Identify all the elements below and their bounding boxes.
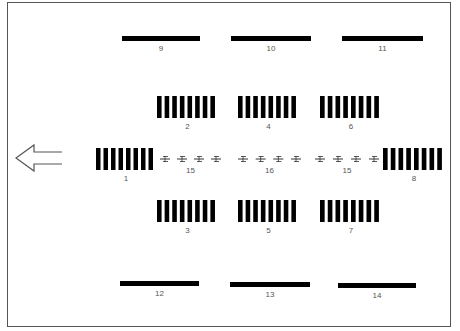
comb-stripe: [437, 148, 442, 170]
comb-stripe: [336, 96, 341, 118]
comb-stripe: [111, 148, 116, 170]
bar-13: 13: [230, 282, 310, 299]
comb-stripe: [367, 200, 372, 222]
connector-symbol: [315, 156, 325, 162]
comb-block-label: 8: [412, 174, 417, 183]
comb-stripe: [351, 200, 356, 222]
connector-symbol: [211, 156, 221, 162]
comb-stripe: [359, 200, 364, 222]
bar-label: 14: [373, 291, 382, 300]
comb-stripe: [422, 148, 427, 170]
comb-stripe: [253, 200, 258, 222]
connector-symbol: [333, 156, 343, 162]
comb-stripe: [157, 96, 162, 118]
comb-stripe: [269, 200, 274, 222]
connector-symbol: [369, 156, 379, 162]
comb-stripe: [414, 148, 419, 170]
symbol-groups-layer: 151615: [160, 156, 379, 175]
comb-stripe: [203, 200, 208, 222]
comb-stripe: [119, 148, 124, 170]
comb-stripe: [195, 96, 200, 118]
comb-stripe: [261, 200, 266, 222]
comb-block-label: 2: [185, 122, 190, 131]
comb-stripe: [374, 200, 379, 222]
comb-stripe: [399, 148, 404, 170]
comb-stripe: [180, 96, 185, 118]
comb-stripe: [328, 200, 333, 222]
symbol-group-label: 16: [265, 166, 274, 175]
connector-symbol: [256, 156, 266, 162]
comb-block-label: 6: [349, 122, 354, 131]
comb-block-label: 7: [349, 226, 354, 235]
bar-label: 13: [266, 290, 275, 299]
symbol-group-15b: 15: [315, 156, 379, 175]
bar-shape: [120, 281, 199, 286]
comb-block-label: 4: [266, 122, 271, 131]
arrow-left-icon: [16, 145, 62, 171]
comb-stripe: [246, 200, 251, 222]
comb-stripe: [276, 200, 281, 222]
comb-block-5: 5: [238, 200, 296, 235]
comb-stripe: [238, 96, 243, 118]
comb-stripe: [172, 96, 177, 118]
comb-stripe: [391, 148, 396, 170]
comb-stripe: [291, 200, 296, 222]
bar-label: 12: [155, 289, 164, 298]
comb-block-4: 4: [238, 96, 296, 131]
comb-stripe: [261, 96, 266, 118]
symbol-group-16: 16: [238, 156, 301, 175]
symbol-group-label: 15: [186, 166, 195, 175]
comb-stripe: [253, 96, 258, 118]
bar-14: 14: [338, 283, 416, 300]
connector-symbol: [238, 156, 248, 162]
bar-shape: [338, 283, 416, 288]
comb-stripe: [269, 96, 274, 118]
comb-stripe: [320, 200, 325, 222]
comb-stripe: [320, 96, 325, 118]
bar-10: 10: [231, 36, 311, 53]
comb-block-label: 3: [185, 226, 190, 235]
bar-shape: [230, 282, 310, 287]
comb-stripe: [149, 148, 154, 170]
connector-symbol: [160, 156, 170, 162]
comb-stripe: [210, 200, 215, 222]
comb-stripe: [134, 148, 139, 170]
comb-stripe: [383, 148, 388, 170]
comb-block-6: 6: [320, 96, 379, 131]
comb-stripe: [284, 96, 289, 118]
comb-stripe: [328, 96, 333, 118]
comb-stripe: [367, 96, 372, 118]
comb-stripe: [351, 96, 356, 118]
connector-symbol: [351, 156, 361, 162]
connector-symbol: [273, 156, 283, 162]
comb-block-7: 7: [320, 200, 379, 235]
comb-stripe: [172, 200, 177, 222]
comb-stripe: [291, 96, 296, 118]
comb-stripe: [430, 148, 435, 170]
comb-stripe: [165, 200, 170, 222]
comb-block-label: 5: [266, 226, 271, 235]
bar-shape: [342, 36, 423, 41]
bar-label: 10: [267, 44, 276, 53]
comb-stripe: [246, 96, 251, 118]
comb-stripe: [141, 148, 146, 170]
symbol-group-15a: 15: [160, 156, 221, 175]
comb-stripe: [165, 96, 170, 118]
comb-stripe: [104, 148, 109, 170]
bar-shape: [122, 36, 200, 41]
comb-block-label: 1: [124, 174, 129, 183]
connector-symbol: [291, 156, 301, 162]
comb-stripe: [336, 200, 341, 222]
comb-stripe: [343, 96, 348, 118]
comb-block-8: 8: [383, 148, 442, 183]
comb-stripe: [188, 96, 193, 118]
comb-block-3: 3: [157, 200, 215, 235]
comb-stripe: [96, 148, 101, 170]
comb-block-2: 2: [157, 96, 215, 131]
comb-stripe: [374, 96, 379, 118]
connector-symbol: [194, 156, 204, 162]
comb-stripe: [284, 200, 289, 222]
comb-stripe: [238, 200, 243, 222]
comb-stripe: [343, 200, 348, 222]
comb-block-1: 1: [96, 148, 153, 183]
